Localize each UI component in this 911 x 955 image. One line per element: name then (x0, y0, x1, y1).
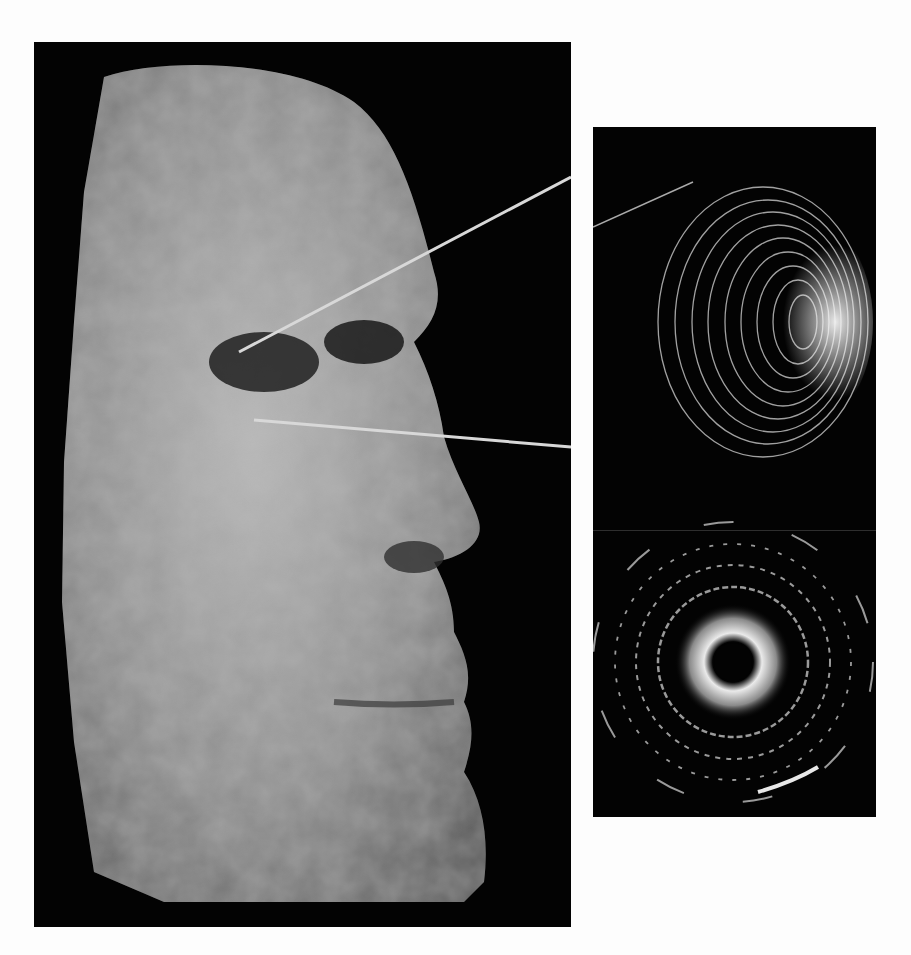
inset-panel (593, 127, 876, 817)
face-render-panel (34, 42, 571, 927)
face-profile-image (34, 42, 571, 927)
diffraction-rings (593, 522, 873, 802)
eye-insets-image (593, 127, 876, 817)
dome-reconstruction (593, 182, 873, 457)
eye-region (209, 332, 319, 392)
